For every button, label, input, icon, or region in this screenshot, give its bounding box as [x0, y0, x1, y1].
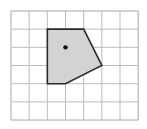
grid-svg [0, 0, 147, 129]
grid-diagram [0, 0, 147, 129]
center-point [63, 45, 67, 49]
